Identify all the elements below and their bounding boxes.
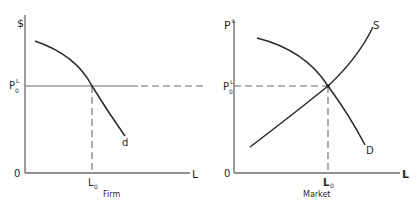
market-supply-curve-S: [250, 27, 373, 147]
firm-demand-curve-d: [35, 41, 125, 136]
labor-market-diagram: $ 0 L P L 0 d L 0 Firm P L 0 L P L: [0, 0, 417, 206]
market-curve-label-D: D: [366, 145, 374, 156]
svg-text:L: L: [232, 17, 236, 24]
market-panel: P L 0 L P L 0 S D L 0 Market: [223, 17, 409, 199]
firm-panel: $ 0 L P L 0 d L 0 Firm: [9, 15, 205, 199]
svg-text:0: 0: [330, 182, 334, 189]
firm-price-label: P L 0: [9, 77, 20, 94]
market-quantity-label: L 0: [323, 177, 334, 189]
firm-caption: Firm: [103, 190, 120, 199]
market-x-axis-label: L: [402, 168, 409, 181]
firm-curve-label-d: d: [122, 137, 128, 148]
market-caption: Market: [303, 190, 331, 199]
svg-text:0: 0: [94, 183, 98, 190]
svg-text:0: 0: [229, 88, 233, 95]
svg-text:0: 0: [15, 87, 19, 94]
svg-text:P: P: [224, 19, 231, 32]
firm-origin-label: 0: [14, 168, 20, 179]
firm-y-axis-label: $: [17, 17, 24, 30]
firm-x-axis-label: L: [192, 168, 199, 181]
equilibrium-point: [326, 84, 330, 88]
svg-text:L: L: [16, 77, 20, 84]
svg-text:L: L: [323, 177, 330, 188]
market-curve-label-S: S: [373, 20, 379, 31]
market-price-label: P L 0: [223, 78, 234, 95]
firm-quantity-label: L 0: [88, 177, 98, 190]
market-origin-label: 0: [224, 168, 230, 179]
